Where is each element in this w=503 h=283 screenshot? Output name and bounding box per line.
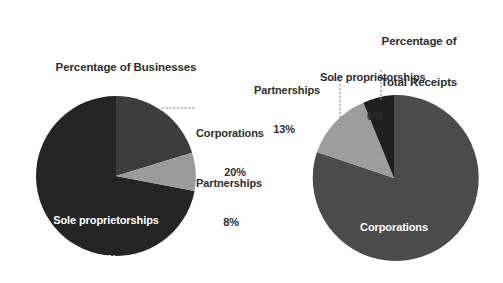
left-chart-title: Percentage of Businesses bbox=[38, 61, 214, 75]
right-label-sole-proprietorships-name: Sole proprietorships bbox=[320, 71, 448, 84]
left-label-partnerships: Partnerships 8% bbox=[196, 151, 300, 255]
left-label-partnerships-value: 8% bbox=[196, 216, 266, 229]
right-label-partnerships: Partnerships 13% bbox=[254, 58, 336, 162]
right-label-corporations-name: Corporations bbox=[334, 221, 454, 234]
left-label-partnerships-name: Partnerships bbox=[196, 177, 300, 190]
right-label-partnerships-value: 13% bbox=[254, 123, 314, 136]
left-label-sole-proprietorships-value: 72% bbox=[36, 253, 176, 266]
left-label-sole-proprietorships-name: Sole proprietorships bbox=[36, 214, 176, 227]
right-label-partnerships-name: Partnerships bbox=[254, 84, 336, 97]
left-label-sole-proprietorships: Sole proprietorships 72% bbox=[36, 188, 176, 283]
two-pie-chart-figure: Percentage of Businesses Corporations 20… bbox=[0, 0, 503, 283]
right-label-sole-proprietorships: Sole proprietorships 6% bbox=[320, 45, 448, 149]
right-label-sole-proprietorships-value: 6% bbox=[320, 110, 448, 123]
right-label-corporations: Corporations 81% bbox=[334, 195, 454, 283]
right-label-corporations-value: 81% bbox=[334, 260, 454, 273]
